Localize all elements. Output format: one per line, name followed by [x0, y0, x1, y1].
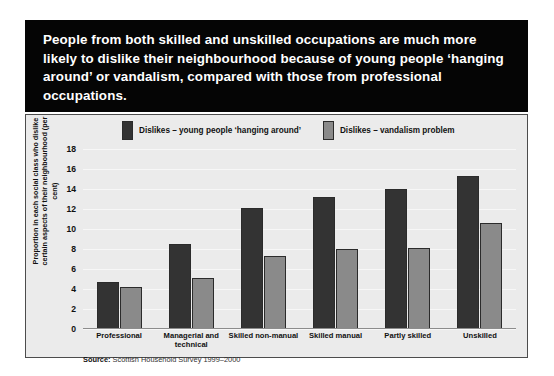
bar-group: [169, 149, 214, 329]
gridline: [83, 329, 516, 330]
bar: [408, 248, 430, 329]
figure: People from both skilled and unskilled o…: [25, 20, 528, 358]
y-tick-label: 10: [66, 224, 76, 234]
bar: [385, 189, 407, 329]
bar-group: [385, 149, 430, 329]
bar: [192, 278, 214, 329]
y-tick-label: 12: [66, 204, 76, 214]
x-category-label: Skilled manual: [300, 331, 372, 350]
plot-area: 024681012141618: [83, 149, 516, 329]
legend-item-hanging-around: Dislikes – young people ‘hanging around’: [122, 121, 301, 140]
bar: [97, 282, 119, 329]
bar-group: [457, 149, 502, 329]
legend-item-vandalism: Dislikes – vandalism problem: [323, 121, 455, 140]
y-tick-label: 14: [66, 184, 76, 194]
bar: [480, 223, 502, 329]
headline-text: People from both skilled and unskilled o…: [43, 31, 512, 105]
x-category-label: Professional: [83, 331, 155, 350]
source-prefix: Source:: [83, 355, 111, 364]
bar: [120, 287, 142, 329]
bar: [169, 244, 191, 329]
y-tick-label: 2: [71, 304, 76, 314]
bar: [336, 249, 358, 329]
chart-legend: Dislikes – young people ‘hanging around’…: [122, 121, 455, 140]
x-category-label: Skilled non-manual: [227, 331, 299, 350]
legend-label-hanging-around: Dislikes – young people ‘hanging around’: [139, 126, 301, 135]
y-tick-label: 8: [71, 244, 76, 254]
legend-label-vandalism: Dislikes – vandalism problem: [340, 126, 455, 135]
x-category-label: Managerial and technical: [155, 331, 227, 350]
legend-swatch-grey: [323, 121, 334, 140]
y-axis-label: Proportion in each social class who disl…: [31, 116, 59, 266]
y-tick-label: 4: [71, 284, 76, 294]
bar: [313, 197, 335, 329]
bar-group: [313, 149, 358, 329]
x-category-label: Unskilled: [444, 331, 516, 350]
bar-group: [241, 149, 286, 329]
bar: [457, 176, 479, 329]
chart-panel: Proportion in each social class who disl…: [25, 114, 528, 358]
bar-groups: [83, 149, 516, 329]
source-text: Scottish Household Survey 1999–2000: [113, 355, 241, 364]
bar-group: [97, 149, 142, 329]
headline-banner: People from both skilled and unskilled o…: [25, 20, 528, 112]
x-axis-categories: ProfessionalManagerial and technicalSkil…: [83, 331, 516, 350]
x-axis-line: [83, 328, 516, 329]
y-tick-label: 6: [71, 264, 76, 274]
source-note: Source: Scottish Household Survey 1999–2…: [83, 355, 240, 364]
y-tick-label: 18: [66, 144, 76, 154]
bar: [241, 208, 263, 329]
legend-swatch-dark: [122, 121, 133, 140]
y-tick-label: 16: [66, 164, 76, 174]
x-category-label: Partly skilled: [372, 331, 444, 350]
bar: [264, 256, 286, 329]
y-tick-label: 0: [71, 324, 76, 334]
